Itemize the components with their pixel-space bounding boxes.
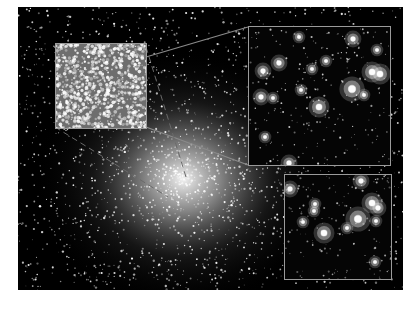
cluster-photograph bbox=[18, 7, 403, 290]
zoom-inset-bottom-right bbox=[284, 174, 392, 280]
zoom-inset-top-right bbox=[248, 26, 391, 166]
zoom-inset-left bbox=[55, 43, 147, 129]
